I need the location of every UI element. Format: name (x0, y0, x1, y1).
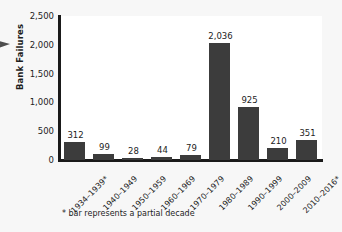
x-axis-tick-slot: 2010–2016* (293, 163, 322, 209)
bar-value-label: 2,036 (206, 31, 235, 41)
bar-slot[interactable]: 351 (293, 16, 322, 160)
chart-footnote: * bar represents a partial decade (62, 209, 195, 218)
bar[interactable] (64, 142, 85, 160)
bar-value-label: 28 (119, 146, 148, 156)
x-axis-tick-labels: 1934–1939*1940–19491950–19591960–1969197… (61, 163, 322, 209)
bar[interactable] (151, 157, 172, 160)
x-axis-tick-label: 2010–2016* (292, 174, 342, 224)
x-axis-tick-slot: 1970–1979 (177, 163, 206, 209)
y-axis-tick-label: 1,500 (14, 69, 54, 79)
y-axis-tick-label: 0 (14, 155, 54, 165)
bar-value-label: 312 (61, 130, 90, 140)
bar-value-label: 351 (293, 128, 322, 138)
bar-value-label: 79 (177, 143, 206, 153)
bar-value-label: 925 (235, 95, 264, 105)
bar-slot[interactable]: 28 (119, 16, 148, 160)
bar-slot[interactable]: 44 (148, 16, 177, 160)
x-axis-tick-slot: 1940–1949 (90, 163, 119, 209)
y-axis-tick-label: 500 (14, 126, 54, 136)
bar[interactable] (122, 158, 143, 160)
x-axis-tick-slot: 1934–1939* (61, 163, 90, 209)
bar-slot[interactable]: 99 (90, 16, 119, 160)
y-axis-tick-label: 2,500 (14, 11, 54, 21)
y-axis-tick-labels: 05001,0001,5002,0002,500 (14, 0, 54, 232)
bars-layer: 312992844792,036925210351 (61, 16, 322, 160)
bar[interactable] (209, 43, 230, 160)
y-axis-tick-label: 2,000 (14, 40, 54, 50)
bar-slot[interactable]: 210 (264, 16, 293, 160)
bar[interactable] (238, 107, 259, 160)
bar-slot[interactable]: 925 (235, 16, 264, 160)
bar-value-label: 210 (264, 136, 293, 146)
bar-slot[interactable]: 79 (177, 16, 206, 160)
bar[interactable] (296, 140, 317, 160)
arrow-icon (0, 40, 10, 49)
x-axis-tick-slot: 1980–1989 (206, 163, 235, 209)
bar[interactable] (267, 148, 288, 160)
bar-value-label: 44 (148, 145, 177, 155)
bar[interactable] (93, 154, 114, 160)
y-axis-tick-label: 1,000 (14, 97, 54, 107)
bar[interactable] (180, 155, 201, 160)
x-axis-tick-slot: 1990–1999 (235, 163, 264, 209)
x-axis-tick-slot: 2000–2009 (264, 163, 293, 209)
bar-slot[interactable]: 2,036 (206, 16, 235, 160)
x-axis-tick-slot: 1960–1969 (148, 163, 177, 209)
bar-value-label: 99 (90, 142, 119, 152)
bar-slot[interactable]: 312 (61, 16, 90, 160)
x-axis-tick-slot: 1950–1959 (119, 163, 148, 209)
